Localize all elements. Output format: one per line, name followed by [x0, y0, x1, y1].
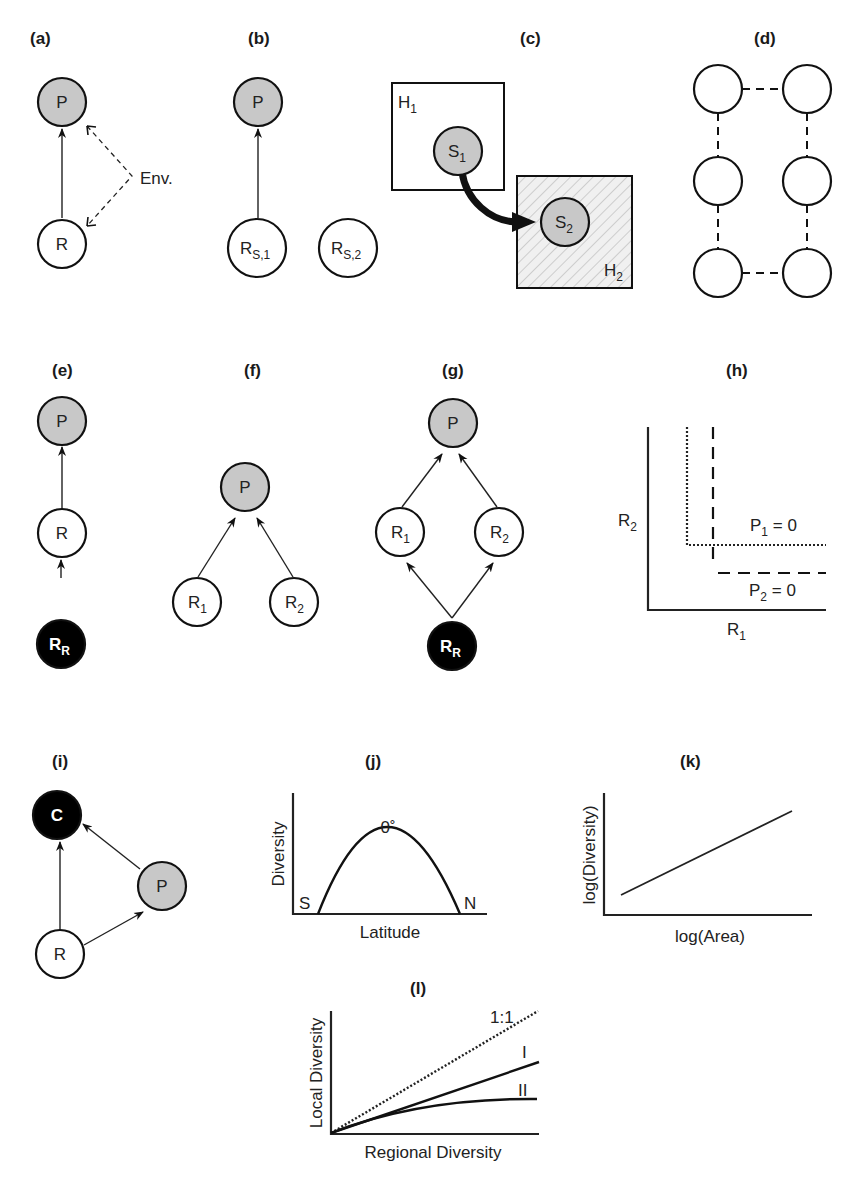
peak-label: 0˚: [380, 818, 395, 837]
h-ylabel: R2: [618, 511, 637, 534]
panel-a: (a) Env. P R: [30, 29, 173, 268]
svg-text:P: P: [156, 877, 167, 896]
south-label: S: [299, 894, 310, 913]
p1-label: P1 = 0: [750, 516, 797, 539]
env-dashed-arrows: [87, 126, 132, 226]
one-to-one-label: 1:1: [490, 1008, 514, 1027]
x-axis-label: Regional Diversity: [365, 1143, 502, 1162]
panel-label: (b): [248, 29, 270, 48]
panel-l: (l) 1:1 I II Regional Diversity Local Di…: [307, 979, 539, 1162]
panel-h: (h) R2 R1 P1 = 0 P2 = 0: [618, 361, 826, 643]
panel-label: (g): [442, 361, 464, 380]
svg-text:P: P: [56, 412, 67, 431]
svg-text:P: P: [252, 93, 263, 112]
axes: [293, 793, 487, 914]
type-I-label: I: [522, 1043, 527, 1062]
panel-label: (f): [244, 361, 261, 380]
svg-text:R: R: [56, 524, 68, 543]
panel-label: (k): [680, 752, 701, 771]
patch-nodes: [694, 65, 831, 297]
panel-j: (j) 0˚ S N Latitude Diversity: [269, 752, 487, 942]
y-axis-label: log(Diversity): [580, 805, 599, 904]
panel-label: (h): [726, 361, 748, 380]
food-web-figure: (a) Env. P R (b) P RS,1 RS,2 (c) H1 H2 S…: [0, 0, 856, 1183]
panel-i: (i) C P R: [33, 752, 186, 978]
panel-f: (f) P R1 R2: [173, 361, 318, 626]
axes: [604, 793, 812, 915]
panel-label: (j): [365, 752, 381, 771]
p2-label: P2 = 0: [749, 581, 796, 604]
x-axis-label: log(Area): [675, 927, 745, 946]
type-II-curve: [331, 1099, 537, 1133]
y-axis-label: Diversity: [269, 821, 288, 887]
env-label: Env.: [140, 169, 173, 188]
svg-text:R: R: [56, 235, 68, 254]
y-axis-label: Local Diversity: [307, 1017, 326, 1128]
svg-text:P: P: [56, 93, 67, 112]
svg-text:P: P: [239, 478, 250, 497]
panel-label: (e): [52, 361, 73, 380]
panel-b: (b) P RS,1 RS,2: [228, 29, 377, 277]
type-II-label: II: [518, 1081, 527, 1100]
species-area-line: [621, 811, 792, 895]
axes: [648, 427, 826, 610]
svg-text:R: R: [54, 945, 66, 964]
h-xlabel: R1: [727, 620, 746, 643]
panel-k: (k) log(Area) log(Diversity): [580, 752, 812, 946]
panel-label: (a): [30, 29, 51, 48]
panel-g: (g) P R1 R2 RR: [376, 361, 523, 670]
panel-label: (c): [520, 29, 541, 48]
north-label: N: [464, 894, 476, 913]
svg-text:C: C: [51, 806, 63, 825]
panel-label: (i): [52, 752, 68, 771]
panel-label: (l): [410, 979, 426, 998]
panel-d: (d): [694, 29, 831, 297]
panel-e: (e) P R RR: [37, 361, 86, 668]
latitudinal-gradient-curve: [318, 827, 460, 914]
panel-c: (c) H1 H2 S1 S2: [392, 29, 632, 288]
panel-label: (d): [754, 29, 776, 48]
x-axis-label: Latitude: [360, 923, 421, 942]
svg-text:P: P: [447, 414, 458, 433]
